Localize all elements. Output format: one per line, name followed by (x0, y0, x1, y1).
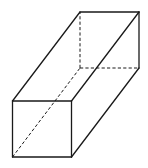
hidden-edge-AE (13, 68, 81, 157)
edge-DH (13, 12, 81, 101)
edge-CG (72, 12, 140, 101)
edge-BF (72, 68, 140, 157)
cuboid-diagram (0, 0, 148, 168)
